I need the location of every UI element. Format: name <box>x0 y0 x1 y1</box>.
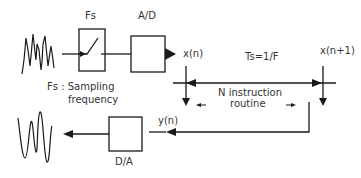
x-n-label: x(n) <box>183 48 203 59</box>
sampler-block <box>79 29 105 71</box>
dac-label: D/A <box>115 156 133 167</box>
y-n-label: y(n) <box>158 115 178 126</box>
x-n-down-arrowhead-icon <box>182 98 190 106</box>
fs-note-line2: frequency <box>68 94 118 105</box>
adc-label: A/D <box>138 10 156 21</box>
routine-end-arrowhead-icon <box>291 103 296 107</box>
ts-label: Ts=1/F <box>244 51 279 62</box>
dac-output-arrowhead-icon <box>63 130 73 138</box>
switch-icon <box>79 38 98 54</box>
output-return-arrowhead-icon <box>166 128 176 136</box>
ts-left-arrowhead-icon <box>186 79 196 87</box>
x-n1-down-arrowhead-icon <box>319 98 327 106</box>
adc-output-arrowhead-icon <box>165 48 176 60</box>
x-n1-label: x(n+1) <box>320 45 355 56</box>
output-waveform-icon <box>18 112 52 162</box>
routine-label-line1: N instruction <box>218 87 282 98</box>
input-waveform-icon <box>22 34 54 74</box>
routine-label-line2: routine <box>230 98 266 109</box>
diagram-canvas: Fs A/D Fs : Sampling frequency x(n) x(n+… <box>0 0 361 178</box>
adc-block <box>131 36 165 72</box>
fs-note-line1: Fs : Sampling <box>47 81 115 92</box>
sampler-label: Fs <box>85 10 96 21</box>
dac-block <box>109 117 142 151</box>
routine-start-arrowhead-icon <box>196 103 201 107</box>
ts-right-arrowhead-icon <box>312 79 322 87</box>
